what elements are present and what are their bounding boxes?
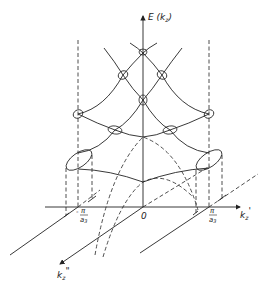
svg-text:-: - (76, 208, 79, 216)
svg-text:π: π (210, 207, 215, 215)
zone-boundary-verticals (66, 40, 222, 215)
right-tick-label: π a3 (209, 207, 217, 224)
dashed-parabolas (95, 137, 198, 257)
band-structure-diagram: E (kz) kz' kz" 0 - π a3 π a3 (0, 0, 259, 287)
origin-label: 0 (141, 211, 147, 221)
energy-bands (78, 43, 209, 182)
kz-prime-label: kz' (240, 206, 251, 221)
left-tick-label: - π a3 (76, 207, 88, 224)
kz-double-prime-label: kz" (57, 266, 70, 281)
svg-text:a3: a3 (80, 216, 87, 224)
svg-text:π: π (81, 207, 86, 215)
energy-axis-label: E (kz) (148, 12, 172, 23)
svg-text:a3: a3 (209, 216, 216, 224)
